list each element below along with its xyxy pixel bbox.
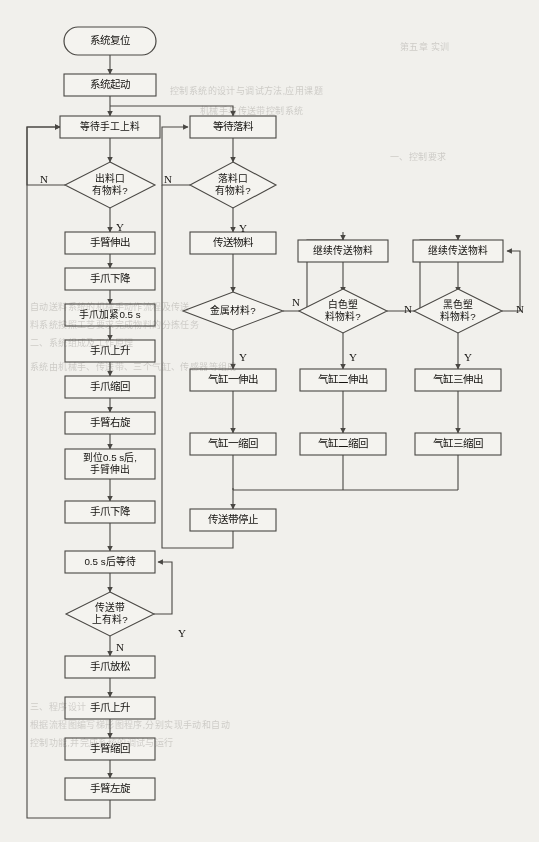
node-label: 金属材料? [210, 304, 256, 316]
branch-label-n: N [292, 296, 300, 308]
branch-label-n: N [516, 303, 524, 315]
flow-node-process[interactable]: 气缸一缩回 [190, 433, 276, 455]
flow-node-process[interactable]: 手臂左旋 [65, 778, 155, 800]
node-label: 手臂右旋 [90, 416, 131, 428]
flow-node-process[interactable]: 气缸三缩回 [415, 433, 501, 455]
flow-node-process[interactable]: 手爪缩回 [65, 376, 155, 398]
flow-node-process[interactable]: 手爪下降 [65, 268, 155, 290]
node-label: 传送物料 [213, 236, 254, 248]
node-label: 手爪加紧0.5 s [79, 308, 140, 320]
branch-label-n: N [40, 173, 48, 185]
branch-label-y: Y [239, 351, 247, 363]
node-label: 继续传送物料 [428, 244, 488, 256]
node-label: 上有料? [92, 613, 128, 625]
flow-node-process[interactable]: 手爪上升 [65, 697, 155, 719]
flowchart-page: 系统复位系统起动等待手工上料出料口有物料?手臂伸出手爪下降手爪加紧0.5 s手爪… [0, 0, 539, 842]
node-label: 气缸二伸出 [318, 373, 368, 385]
node-label: 手臂伸出 [90, 236, 130, 248]
node-label: 系统复位 [90, 34, 131, 46]
flow-node-process[interactable]: 气缸二伸出 [300, 369, 386, 391]
flow-node-process[interactable]: 手爪上升 [65, 340, 155, 362]
flow-node-terminator[interactable]: 系统复位 [64, 27, 156, 55]
branch-label-y: Y [178, 627, 186, 639]
flow-node-decision[interactable]: 金属材料? [183, 292, 283, 330]
node-label: 气缸三缩回 [433, 437, 483, 449]
node-label: 手爪下降 [90, 505, 131, 517]
node-label: 白色塑 [328, 298, 358, 310]
flow-node-process[interactable]: 系统起动 [64, 74, 156, 96]
flow-node-decision[interactable]: 传送带上有料? [66, 592, 154, 636]
node-label: 传送带停止 [208, 513, 258, 525]
node-label: 黑色塑 [443, 298, 473, 310]
branch-label-n: N [116, 641, 124, 653]
node-label: 有物料? [92, 184, 128, 196]
branch-label-y: Y [239, 222, 247, 234]
node-label: 手臂伸出 [90, 463, 130, 475]
flow-node-decision[interactable]: 白色塑料物料? [299, 289, 387, 333]
flowchart-canvas: 系统复位系统起动等待手工上料出料口有物料?手臂伸出手爪下降手爪加紧0.5 s手爪… [0, 0, 539, 842]
flow-node-decision[interactable]: 落料口有物料? [190, 162, 276, 208]
node-label: 手臂缩回 [90, 742, 130, 754]
node-label: 系统起动 [90, 78, 130, 90]
node-label: 气缸二缩回 [318, 437, 368, 449]
flow-node-process[interactable]: 继续传送物料 [413, 240, 503, 262]
edge-dec2-yes-loop [154, 562, 172, 614]
node-label: 气缸三伸出 [433, 373, 483, 385]
node-label: 气缸一缩回 [208, 437, 258, 449]
node-label: 到位0.5 s后, [83, 451, 137, 463]
flow-node-process[interactable]: 气缸一伸出 [190, 369, 276, 391]
node-label: 手爪下降 [90, 272, 131, 284]
flow-node-process[interactable]: 手臂伸出 [65, 232, 155, 254]
node-label: 等待手工上料 [80, 120, 140, 132]
flow-node-process[interactable]: 手臂缩回 [65, 738, 155, 760]
branch-label-n: N [404, 303, 412, 315]
edge-start-to-wait-drop [110, 106, 233, 116]
flow-node-process[interactable]: 0.5 s后等待 [65, 551, 155, 573]
node-label: 手爪放松 [90, 660, 131, 672]
flow-node-decision[interactable]: 黑色塑料物料? [414, 289, 502, 333]
flow-node-process[interactable]: 继续传送物料 [298, 240, 388, 262]
node-label: 手爪缩回 [90, 380, 130, 392]
node-label: 传送带 [95, 601, 125, 613]
flow-node-process[interactable]: 传送物料 [190, 232, 276, 254]
flow-node-process[interactable]: 到位0.5 s后,手臂伸出 [65, 449, 155, 479]
node-label: 手臂左旋 [90, 782, 131, 794]
node-label: 等待落料 [213, 120, 254, 132]
flow-node-process[interactable]: 气缸三伸出 [415, 369, 501, 391]
branch-label-y: Y [116, 221, 124, 233]
flow-node-process[interactable]: 手爪下降 [65, 501, 155, 523]
flow-node-process[interactable]: 等待手工上料 [60, 116, 160, 138]
branch-label-y: Y [349, 351, 357, 363]
node-label: 气缸一伸出 [208, 373, 258, 385]
node-label: 有物料? [215, 184, 251, 196]
node-label: 0.5 s后等待 [84, 555, 135, 567]
flow-node-process[interactable]: 手爪加紧0.5 s [65, 304, 155, 326]
flow-node-process[interactable]: 气缸二缩回 [300, 433, 386, 455]
flow-node-process[interactable]: 传送带停止 [190, 509, 276, 531]
node-label: 手爪上升 [90, 701, 130, 713]
node-label: 继续传送物料 [313, 244, 373, 256]
flow-node-process[interactable]: 手爪放松 [65, 656, 155, 678]
node-label: 料物料? [440, 310, 476, 322]
flow-node-process[interactable]: 手臂右旋 [65, 412, 155, 434]
flow-node-process[interactable]: 等待落料 [190, 116, 276, 138]
branch-label-y: Y [464, 351, 472, 363]
node-layer: 系统复位系统起动等待手工上料出料口有物料?手臂伸出手爪下降手爪加紧0.5 s手爪… [60, 27, 503, 800]
flow-node-decision[interactable]: 出料口有物料? [65, 162, 155, 208]
node-label: 落料口 [218, 172, 248, 184]
node-label: 出料口 [95, 172, 125, 184]
branch-label-n: N [164, 173, 172, 185]
node-label: 手爪上升 [90, 344, 130, 356]
node-label: 料物料? [325, 310, 361, 322]
